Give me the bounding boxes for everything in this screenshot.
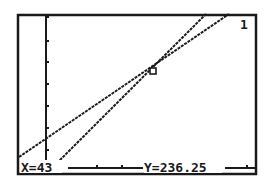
graph-window-frame bbox=[18, 15, 256, 174]
graph-number: 1 bbox=[240, 17, 248, 32]
trace-cursor[interactable] bbox=[150, 68, 156, 74]
trace-y-readout: Y=236.25 bbox=[144, 160, 207, 175]
trace-x-readout: X=43 bbox=[21, 160, 52, 175]
graph-canvas: 1 X=43 Y=236.25 bbox=[0, 0, 276, 193]
calculator-graph-screen: 1 X=43 Y=236.25 bbox=[0, 0, 276, 193]
